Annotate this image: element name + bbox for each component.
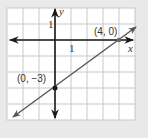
point-label-0-neg3: (0, −3)	[17, 74, 46, 84]
y-axis-label: y	[59, 6, 64, 17]
x-tick-label: 1	[69, 43, 75, 54]
point-4-0	[117, 38, 122, 43]
y-tick-label: 1	[48, 19, 54, 30]
point-label-4-0: (4, 0)	[94, 27, 117, 37]
point-0-neg3	[53, 86, 58, 91]
coordinate-graph	[0, 0, 148, 138]
x-axis-label: x	[128, 43, 133, 54]
